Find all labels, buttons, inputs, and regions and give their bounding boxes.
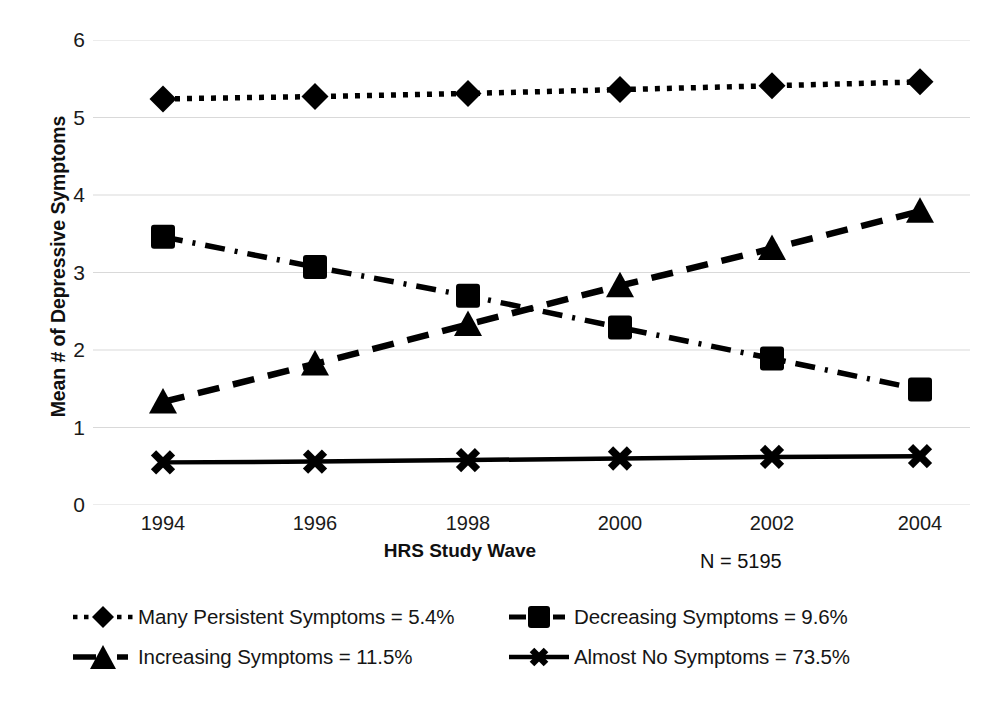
marker-square [303,255,327,279]
diamond-dotted-key [72,602,134,632]
marker-diamond [607,76,634,103]
gridlines [93,40,970,505]
y-tick-label: 5 [49,107,85,128]
plot-area [93,40,970,505]
x-tick-label: 1994 [118,512,208,534]
marker-triangle [906,197,934,222]
series-line [163,237,920,390]
marker-triangle [758,234,786,259]
legend-label: Almost No Symptoms = 73.5% [574,646,850,668]
chart-legend: Many Persistent Symptoms = 5.4% Increasi… [60,600,960,690]
legend-item-almost-no: Almost No Symptoms = 73.5% [508,640,850,674]
marker-diamond [150,85,177,112]
series-line [163,211,920,402]
cross-solid-key [508,642,570,672]
triangle-dashed-key [72,642,134,672]
marker-square [908,378,932,402]
y-tick-label: 3 [49,262,85,283]
y-tick-label: 4 [49,184,85,205]
x-tick-label: 2002 [727,512,817,534]
y-axis-tick-labels: 0123456 [40,0,85,703]
x-tick-label: 1998 [423,512,513,534]
marker-triangle [301,350,329,375]
x-tick-label: 1996 [270,512,360,534]
y-tick-label: 2 [49,339,85,360]
marker-diamond [759,72,786,99]
legend-item-increasing: Increasing Symptoms = 11.5% [72,640,412,674]
plot-svg [93,40,970,505]
x-tick-label: 2004 [875,512,965,534]
series-line [163,82,920,99]
y-tick-label: 6 [49,29,85,50]
chart-figure: Mean # of Depressive Symptoms 0123456 19… [0,0,995,703]
series-line [163,456,920,462]
marker-square [456,284,480,308]
series-markers [149,68,934,472]
x-axis-tick-labels: 199419961998200020022004 [0,512,995,540]
legend-label: Increasing Symptoms = 11.5% [138,646,412,668]
marker-diamond [907,68,934,95]
marker-square [608,316,632,340]
legend-item-many-persistent: Many Persistent Symptoms = 5.4% [72,600,454,634]
square-dashdot-key [508,602,570,632]
y-tick-label: 1 [49,417,85,438]
marker-square [151,225,175,249]
x-tick-label: 2000 [575,512,665,534]
sample-size-note: N = 5195 [700,550,782,573]
legend-label: Decreasing Symptoms = 9.6% [574,606,848,628]
marker-diamond [455,80,482,107]
marker-square [760,347,784,371]
legend-item-decreasing: Decreasing Symptoms = 9.6% [508,600,848,634]
marker-diamond [302,83,329,110]
legend-label: Many Persistent Symptoms = 5.4% [138,606,454,628]
x-axis-title: HRS Study Wave [330,540,590,562]
